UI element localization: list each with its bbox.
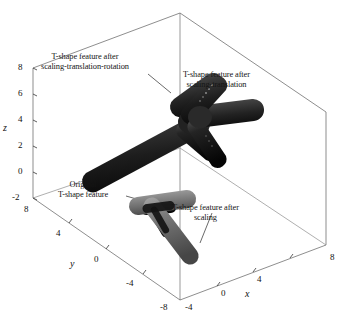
annotation-line-2: scaling: [172, 213, 239, 223]
x-tick-0: 0: [221, 288, 226, 298]
x-axis-label: x: [245, 288, 249, 299]
annotation-scaling-translation-rotation: T-shape feature after scaling-translatio…: [41, 52, 129, 71]
figure-3d-tshape-transformations: T-shape feature after scaling-translatio…: [0, 0, 347, 322]
y-tick-neg8: -8: [160, 302, 168, 312]
annotation-scaling-translation: T-shape feature after scaling-translatio…: [183, 70, 250, 89]
y-tick-4: 4: [56, 228, 61, 238]
z-tick-6: 6: [18, 88, 23, 98]
leader-rotated: [148, 74, 171, 93]
x-tick-neg4: -4: [185, 302, 193, 312]
x-tick-8: 8: [330, 252, 335, 262]
y-axis-label: y: [70, 258, 74, 269]
z-tick-4: 4: [18, 114, 23, 124]
z-tick-2: 2: [18, 140, 23, 150]
annotation-original: Original T-shape feature: [58, 180, 108, 199]
y-tick-8: 8: [24, 204, 29, 214]
x-tick-4: 4: [257, 274, 262, 284]
scene-svg: [0, 0, 347, 322]
annotation-line-2: scaling-translation: [183, 80, 250, 90]
z-tick-8: 8: [18, 62, 23, 72]
annotation-line-1: T-shape feature after: [183, 70, 250, 80]
z-tick-neg2: -2: [12, 192, 20, 202]
z-axis-ticks: [33, 68, 37, 200]
y-tick-neg4: -4: [126, 278, 134, 288]
z-axis-label: z: [3, 122, 7, 133]
annotation-line-1: T-shape feature after: [172, 203, 239, 213]
annotation-line-1: Original: [58, 180, 108, 190]
annotation-line-1: T-shape feature after: [41, 52, 129, 62]
y-tick-0: 0: [94, 254, 99, 264]
x-axis-ticks: [217, 254, 293, 286]
y-axis-ticks: [69, 219, 146, 274]
t-shape-after-scaling[interactable]: [129, 190, 199, 265]
z-tick-0: 0: [18, 166, 23, 176]
annotation-line-2: T-shape feature: [58, 190, 108, 200]
annotation-scaling: T-shape feature after scaling: [172, 203, 239, 222]
annotation-line-2: scaling-translation-rotation: [41, 62, 129, 72]
